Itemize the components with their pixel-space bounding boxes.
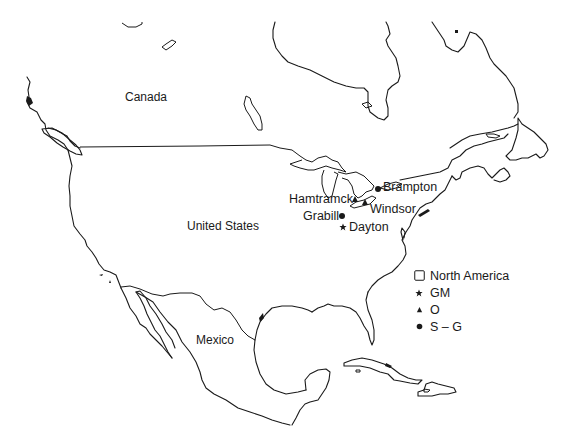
coastline-pacific-northwest (27, 77, 68, 150)
lake-superior (270, 145, 346, 172)
coastline-mexico-west (136, 292, 290, 425)
country-label-united-states: United States (187, 220, 259, 232)
triangle-marker-windsor (361, 198, 369, 206)
coastline-baja-inner (136, 291, 175, 358)
coastline-labrador (432, 22, 518, 118)
legend-item-s-g: S – G (413, 318, 509, 335)
lake-winnipeg (244, 96, 262, 130)
coastline-us-west (68, 150, 121, 288)
blot-alaska-panhandle (26, 96, 33, 106)
us-canada-border (80, 145, 270, 147)
legend-label: GM (430, 286, 450, 300)
coastline-hudson-bay-west (273, 22, 400, 120)
blot-long-island (418, 209, 430, 217)
legend-item-north-america: North America (413, 267, 509, 284)
circle-marker-brampton (374, 185, 382, 193)
st-lawrence-shore (400, 134, 508, 180)
legend-item-o: O (413, 301, 509, 318)
legend-label: O (430, 303, 440, 317)
us-mexico-border (121, 286, 255, 340)
star-marker-dayton (339, 223, 347, 231)
coastline-gulf-us (312, 292, 374, 345)
island-channel-1 (99, 274, 103, 276)
country-label-canada: Canada (125, 91, 167, 103)
site-label-windsor: Windsor (370, 203, 416, 216)
site-label-brampton: Brampton (383, 181, 437, 194)
island-channel-2 (109, 280, 111, 283)
anticosti-island (486, 134, 500, 138)
site-label-hamtramck: Hamtramck (289, 193, 353, 206)
island-labrador-small (455, 30, 458, 33)
coastline-yucatan (292, 369, 330, 425)
country-label-mexico: Mexico (196, 334, 234, 346)
triangle-icon (413, 304, 425, 316)
site-label-dayton: Dayton (349, 221, 389, 234)
star-icon (413, 287, 425, 299)
coastline-gulf-mexico-west (255, 306, 312, 340)
coastline-maine-nova-scotia (452, 166, 510, 182)
isle-of-youth (356, 370, 360, 372)
chesapeake-bay (401, 228, 405, 240)
legend-item-gm: GM (413, 284, 509, 301)
akimiski-island (362, 102, 372, 108)
legend-label: S – G (430, 320, 462, 334)
north-america-map (0, 0, 578, 427)
legend-label: North America (430, 269, 509, 283)
square-outline-icon (413, 270, 425, 282)
hispaniola-inner (424, 389, 430, 392)
map-legend: North America GM O S – G (413, 267, 509, 335)
gulf-st-lawrence-north (450, 124, 518, 148)
coastline-gulf-mexico-south (254, 340, 306, 394)
circle-marker-grabill (338, 212, 346, 220)
great-bear-lake (122, 22, 142, 27)
circle-icon (413, 321, 425, 333)
site-label-grabill: Grabill (303, 210, 339, 223)
great-slave-lake (162, 40, 176, 50)
newfoundland (506, 118, 548, 160)
